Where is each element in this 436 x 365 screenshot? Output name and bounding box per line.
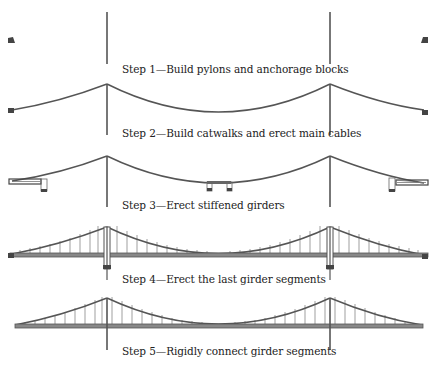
main-cable-right-side-span: [330, 84, 424, 110]
main-cable-right-side-span: [330, 227, 424, 255]
main-cable-right-side-span: [330, 298, 422, 325]
main-cable-main-span: [107, 298, 330, 324]
left-anchorage-block: [8, 253, 14, 258]
center-right-support-base: [227, 188, 232, 191]
deck-girder: [10, 253, 428, 257]
step-4-drawing: [8, 226, 428, 280]
left-anchorage-block: [8, 108, 14, 113]
main-cable-left-side-span: [12, 156, 107, 181]
bridge-construction-diagram: [0, 0, 436, 365]
main-cable-left-side-span: [15, 298, 107, 325]
main-cable-left-side-span: [12, 227, 107, 254]
main-cable-left-side-span: [12, 84, 107, 110]
hangers: [20, 226, 418, 254]
step-3-label: Step 3—Erect stiffened girders: [122, 199, 285, 211]
main-cable-main-span: [107, 84, 330, 112]
step-2-label: Step 2—Build catwalks and erect main cab…: [122, 127, 361, 139]
left-support-base: [41, 189, 47, 192]
right-anchorage-block: [422, 110, 428, 115]
center-left-support-base: [207, 188, 212, 191]
hangers: [25, 297, 405, 325]
main-cable-main-span: [107, 156, 330, 183]
left-anchorage-block: [8, 37, 15, 43]
step-5-drawing: [15, 297, 423, 350]
left-pylon-base: [103, 265, 111, 269]
right-anchorage-block: [421, 37, 428, 43]
right-pylon-base: [326, 265, 334, 269]
main-cable-main-span: [107, 227, 330, 254]
step-1-label: Step 1—Build pylons and anchorage blocks: [122, 63, 349, 75]
step-5-label: Step 5—Rigidly connect girder segments: [122, 345, 336, 357]
right-support-base: [389, 189, 395, 192]
step-4-label: Step 4—Erect the last girder segments: [122, 273, 326, 285]
deck-girder: [15, 324, 423, 328]
right-anchorage-block: [422, 254, 428, 259]
step-1-drawing: [8, 12, 428, 64]
main-cable-right-side-span: [330, 156, 424, 183]
